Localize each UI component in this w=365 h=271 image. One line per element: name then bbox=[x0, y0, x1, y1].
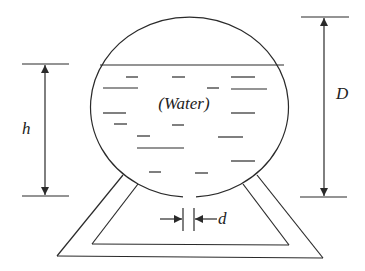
inner-left-leg bbox=[92, 184, 138, 244]
diameter-dimension bbox=[300, 17, 349, 197]
support-stand bbox=[57, 175, 323, 258]
D-label: D bbox=[335, 84, 349, 103]
hole-dimension bbox=[160, 208, 217, 231]
water-dashes bbox=[103, 77, 267, 173]
tank-diagram: (Water) h D d bbox=[0, 0, 365, 271]
inner-base bbox=[92, 244, 289, 245]
h-label: h bbox=[22, 119, 31, 138]
outer-base bbox=[57, 256, 323, 258]
d-label: d bbox=[218, 209, 227, 228]
inner-right-leg bbox=[243, 184, 289, 245]
water-label: (Water) bbox=[158, 94, 210, 113]
